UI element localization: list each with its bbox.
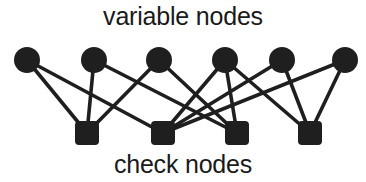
variable-node-layer <box>14 47 358 73</box>
check-node-3 <box>225 121 249 145</box>
variable-node-4 <box>212 47 238 73</box>
variable-node-6 <box>332 47 358 73</box>
edge-layer <box>27 60 345 133</box>
check-node-1 <box>75 121 99 145</box>
check-node-4 <box>298 121 322 145</box>
variable-node-1 <box>14 47 40 73</box>
check-node-layer <box>75 121 322 145</box>
variable-node-2 <box>81 47 107 73</box>
check-node-2 <box>151 121 175 145</box>
variable-node-5 <box>269 47 295 73</box>
tanner-graph-figure: variable nodes check nodes <box>0 0 366 182</box>
variable-node-3 <box>146 47 172 73</box>
check-nodes-label: check nodes <box>0 152 366 177</box>
